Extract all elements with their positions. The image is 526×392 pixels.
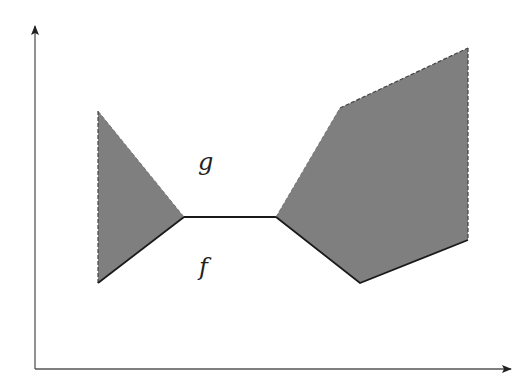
label-g: g	[198, 150, 213, 174]
right-region	[276, 48, 468, 283]
left-region	[98, 111, 184, 283]
label-f: f	[199, 255, 208, 279]
diagram-canvas	[0, 0, 526, 392]
